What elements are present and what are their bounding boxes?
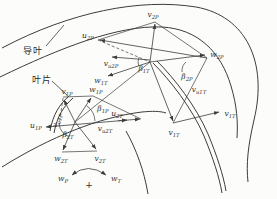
vector-vu2T: [118, 120, 127, 121]
label-v1P: v1P: [61, 87, 73, 97]
edge-v2P-u2P: [98, 22, 155, 40]
label-u2T: u2T: [111, 109, 123, 119]
guide-vane-leader-line: [46, 25, 64, 46]
vector-v1P: [64, 100, 75, 122]
vector-vu2P: [112, 57, 150, 60]
rotation-direction-arrow: [72, 169, 106, 176]
label-vu1P: vu1P: [50, 111, 64, 128]
vector-v1T-right: [173, 112, 219, 123]
label-w2T: w2T: [54, 154, 68, 164]
guide-vane-label: 导叶: [23, 46, 43, 56]
blade-label: 叶片: [32, 74, 52, 85]
label-v2P: v2P: [147, 10, 159, 20]
label-u1P: u1P: [30, 121, 42, 131]
vector-w2P: [150, 55, 205, 62]
label-vu2P: vu2P: [104, 59, 119, 69]
diagram-canvas: 导叶 叶片 v2P u2P w2P vu2P β1T w1T β2P vu1T …: [0, 0, 277, 199]
velocity-triangle-figure: 导叶 叶片 v2P u2P w2P vu2P β1T w1T β2P vu1T …: [0, 0, 277, 199]
edge-v2P-w2P: [155, 22, 207, 58]
label-v2T: v2T: [94, 154, 106, 164]
outer-casing-arc: [2, 4, 258, 182]
label-beta1P: β1P: [96, 104, 109, 114]
label-w1P: w1P: [89, 85, 103, 95]
label-v1T-lower: v1T: [168, 128, 180, 138]
label-v1T-right: v1T: [224, 109, 236, 119]
vector-u2P: [100, 40, 207, 58]
inner-hub-arc: [2, 111, 166, 167]
vector-w1P: [75, 98, 91, 122]
label-w1T: w1T: [94, 76, 108, 86]
runner-blade-arc-1: [153, 63, 222, 193]
edge-bottom-parallelogram: [62, 151, 97, 152]
label-wT: wT: [111, 174, 121, 184]
angle-arc-beta2P: [182, 62, 186, 72]
label-beta2P: β2P: [180, 72, 193, 82]
label-u2P: u2P: [82, 31, 94, 41]
angle-arc-beta1P: [87, 106, 96, 122]
label-wP: wP: [58, 174, 68, 184]
label-vu2T: vu2T: [98, 124, 113, 134]
label-beta1T: β1T: [137, 64, 150, 74]
label-vu1T: vu1T: [192, 85, 207, 95]
small-hub-arc: [126, 131, 148, 194]
vector-v2P: [150, 24, 155, 62]
rotation-plus-sign: +: [85, 180, 93, 190]
label-beta2T: β2T: [61, 130, 74, 140]
label-w2P: w2P: [210, 50, 224, 60]
